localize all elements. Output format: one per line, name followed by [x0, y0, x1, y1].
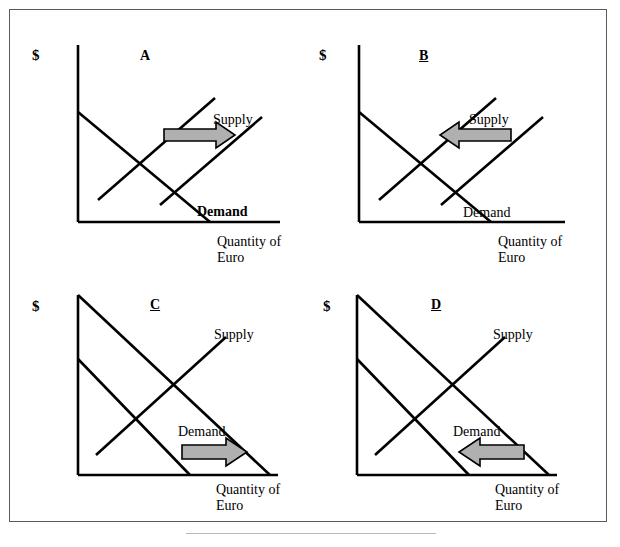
x-axis-caption-line1-d: Quantity of	[495, 482, 559, 498]
demand-curve-shifted-d	[357, 359, 469, 475]
x-axis-caption-line2-d: Euro	[495, 498, 522, 514]
x-axis-caption-line2-a: Euro	[217, 250, 244, 266]
figure-frame: $ A Supply Demand Quantity of Euro $ B	[9, 9, 607, 522]
supply-curve-original-a	[98, 98, 215, 200]
demand-label-a: Demand	[197, 205, 248, 219]
supply-label-d: Supply	[493, 328, 533, 342]
panel-d: $ D Supply Demand Quantity of Euro	[315, 275, 600, 515]
x-axis-caption-line1-a: Quantity of	[217, 234, 281, 250]
demand-curve-original-c	[78, 359, 190, 475]
supply-label-b: Supply	[469, 113, 509, 127]
panel-a: $ A Supply Demand Quantity of Euro	[30, 28, 310, 268]
x-axis-caption-line2-b: Euro	[498, 250, 525, 266]
page-bottom-rule	[186, 533, 436, 534]
x-axis-caption-line1-b: Quantity of	[498, 234, 562, 250]
x-axis-caption-line2-c: Euro	[216, 498, 243, 514]
demand-label-b: Demand	[463, 206, 510, 220]
supply-label-c: Supply	[214, 328, 254, 342]
demand-shift-arrow-right-c	[182, 438, 247, 466]
panel-a-plot	[30, 28, 310, 268]
demand-label-c: Demand	[178, 425, 225, 439]
panel-c-plot	[30, 275, 315, 515]
supply-label-a: Supply	[213, 113, 253, 127]
demand-label-d: Demand	[453, 425, 500, 439]
x-axis-caption-line1-c: Quantity of	[216, 482, 280, 498]
panel-b-plot	[315, 28, 600, 268]
panel-c: $ C Supply Demand Quantity of Euro	[30, 275, 315, 515]
panel-d-plot	[315, 275, 600, 515]
panel-b: $ B Supply Demand Quantity of Euro	[315, 28, 600, 268]
